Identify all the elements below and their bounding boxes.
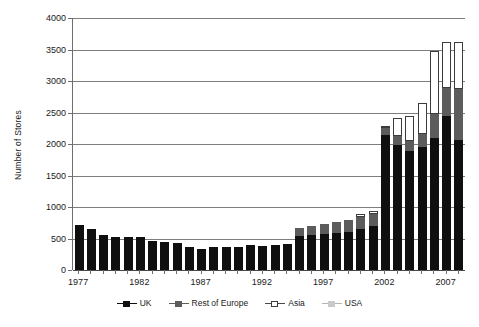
x-tick-label: 1982 (116, 277, 162, 287)
bar-segment (75, 225, 84, 270)
chart-legend: UKRest of EuropeAsiaUSA (0, 299, 479, 308)
y-tick-label: 2500 (26, 108, 66, 118)
x-tick-mark (360, 270, 361, 274)
x-tick-mark (90, 270, 91, 274)
y-tick-mark (68, 239, 72, 240)
bar-segment (185, 247, 194, 270)
x-tick-label: 2002 (361, 277, 407, 287)
bar-column (148, 241, 157, 270)
bar-column (258, 246, 267, 270)
bar-segment (356, 229, 365, 270)
bar-column (442, 42, 451, 270)
bar-column (222, 247, 231, 270)
x-tick-label: 1997 (300, 277, 346, 287)
x-tick-mark (433, 270, 434, 274)
bar-column (356, 214, 365, 270)
bar-column (430, 51, 439, 270)
y-tick-label: 4000 (26, 13, 66, 23)
x-tick-mark (384, 270, 385, 274)
bar-column (369, 211, 378, 271)
x-tick-mark (335, 270, 336, 274)
legend-label: Rest of Europe (192, 299, 249, 308)
bar-segment (197, 249, 206, 270)
bar-column (271, 245, 280, 270)
bar-segment (234, 247, 243, 270)
legend-entry[interactable]: UK (117, 299, 152, 308)
bar-column (381, 126, 390, 270)
bar-column (111, 237, 120, 270)
bar-column (320, 224, 329, 270)
x-tick-mark (262, 270, 263, 274)
bar-column (307, 226, 316, 270)
bar-column (197, 249, 206, 270)
x-tick-mark (397, 270, 398, 274)
y-tick-mark (68, 176, 72, 177)
legend-label: Asia (288, 299, 305, 308)
bar-segment (344, 220, 353, 232)
bar-segment (454, 89, 463, 139)
chart-figure: Number of Stores 05001000150020002500300… (0, 0, 479, 327)
bar-segment (393, 145, 402, 270)
bar-column (234, 247, 243, 270)
bar-segment (87, 229, 96, 270)
y-tick-label: 1500 (26, 171, 66, 181)
bar-segment (356, 217, 365, 229)
y-tick-mark (68, 270, 72, 271)
bar-series-layer (73, 18, 465, 270)
y-tick-label: 3000 (26, 76, 66, 86)
bar-column (454, 42, 463, 270)
x-tick-mark (299, 270, 300, 274)
bar-segment (430, 114, 439, 138)
legend-entry[interactable]: USA (322, 299, 362, 308)
x-tick-mark (188, 270, 189, 274)
x-tick-mark (164, 270, 165, 274)
bar-segment (430, 138, 439, 270)
bar-segment (246, 245, 255, 270)
bar-segment (258, 246, 267, 270)
bar-column (246, 245, 255, 270)
bar-column (99, 235, 108, 270)
bar-segment (99, 235, 108, 270)
y-tick-label: 2000 (26, 139, 66, 149)
y-tick-mark (68, 113, 72, 114)
bar-column (75, 225, 84, 270)
x-tick-mark (250, 270, 251, 274)
x-tick-label: 2007 (423, 277, 469, 287)
x-tick-label: 1987 (178, 277, 224, 287)
x-tick-mark (446, 270, 447, 274)
bar-column (405, 116, 414, 270)
x-tick-mark (152, 270, 153, 274)
bar-column (209, 247, 218, 270)
y-tick-mark (68, 144, 72, 145)
bar-segment (148, 241, 157, 270)
bar-segment (283, 244, 292, 270)
bar-segment (418, 103, 427, 134)
x-tick-mark (127, 270, 128, 274)
x-tick-mark (458, 270, 459, 274)
bar-segment (405, 116, 414, 141)
bar-segment (442, 88, 451, 116)
bar-column (344, 220, 353, 270)
x-tick-mark (103, 270, 104, 274)
x-tick-mark (78, 270, 79, 274)
bar-segment (381, 135, 390, 270)
legend-entry[interactable]: Asia (265, 299, 305, 308)
x-tick-mark (372, 270, 373, 274)
bar-segment (381, 128, 390, 135)
y-tick-label: 500 (26, 234, 66, 244)
x-tick-mark (139, 270, 140, 274)
y-tick-label: 3500 (26, 45, 66, 55)
plot-area (72, 18, 465, 270)
x-tick-label: 1977 (55, 277, 101, 287)
y-tick-mark (68, 18, 72, 19)
bar-segment (271, 245, 280, 270)
bar-segment (369, 214, 378, 226)
bar-column (160, 242, 169, 270)
bar-column (393, 118, 402, 270)
bar-segment (173, 243, 182, 270)
x-tick-mark (115, 270, 116, 274)
legend-entry[interactable]: Rest of Europe (169, 299, 249, 308)
bar-segment (307, 226, 316, 235)
bar-column (332, 222, 341, 270)
bar-segment (442, 42, 451, 88)
